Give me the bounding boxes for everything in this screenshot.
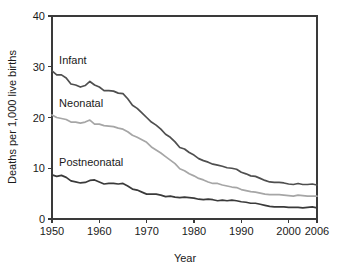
series-label-postneonatal: Postneonatal — [59, 156, 123, 168]
series-lines — [52, 71, 317, 208]
series-label-infant: Infant — [59, 54, 87, 66]
plot-frame — [52, 16, 317, 219]
x-tick-label: 1970 — [134, 225, 158, 237]
x-axis-title: Year — [174, 252, 197, 264]
y-tick-label: 30 — [33, 61, 45, 73]
y-tick-label: 20 — [33, 112, 45, 124]
y-axis-ticks: 010203040 — [33, 10, 52, 225]
x-tick-label: 1980 — [182, 225, 206, 237]
series-line-postneonatal — [52, 175, 317, 208]
y-tick-label: 40 — [33, 10, 45, 22]
x-axis-ticks: 1950196019701980199020002006 — [40, 219, 329, 237]
series-inline-labels: InfantNeonatalPostneonatal — [59, 54, 123, 169]
plot-border — [52, 16, 317, 219]
x-tick-label: 1990 — [229, 225, 253, 237]
x-tick-label: 1960 — [87, 225, 111, 237]
chart-canvas: 010203040 1950196019701980199020002006 I… — [0, 0, 340, 275]
x-tick-label: 2006 — [305, 225, 329, 237]
y-axis-title: Deaths per 1,000 live births — [6, 50, 18, 184]
x-tick-label: 1950 — [40, 225, 64, 237]
infant-mortality-line-chart: 010203040 1950196019701980199020002006 I… — [0, 0, 340, 275]
y-tick-label: 10 — [33, 162, 45, 174]
x-tick-label: 2000 — [276, 225, 300, 237]
y-tick-label: 0 — [39, 213, 45, 225]
series-label-neonatal: Neonatal — [59, 97, 103, 109]
